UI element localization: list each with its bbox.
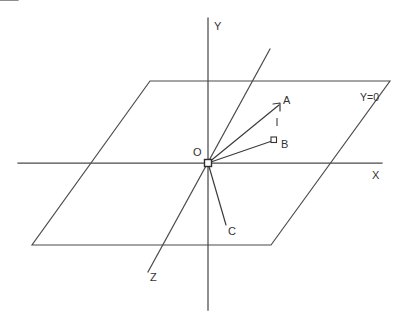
y-axis-label: Y <box>214 21 221 32</box>
z-axis-label: Z <box>150 272 157 283</box>
x-axis-label: X <box>372 170 379 181</box>
diagram-canvas: Y X Z O Y=0 A B C <box>0 0 402 317</box>
point-b-marker <box>271 137 277 143</box>
vector-oc-line <box>208 163 226 225</box>
coordinate-diagram-svg <box>0 0 402 317</box>
plane-label: Y=0 <box>360 92 379 103</box>
origin-label: O <box>193 147 202 158</box>
origin-marker <box>205 160 212 167</box>
point-b-label: B <box>281 139 288 150</box>
point-a-label: A <box>283 95 290 106</box>
vector-oa-line <box>208 105 279 163</box>
point-c-label: C <box>228 226 236 237</box>
